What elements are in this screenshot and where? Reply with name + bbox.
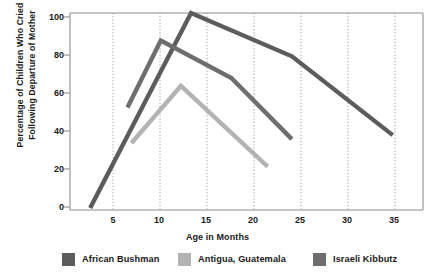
legend-item-israeli-kibbutz: Israeli Kibbutz [313,250,397,268]
legend-label: Israeli Kibbutz [333,254,397,264]
series-line-antigua-guatemala [132,86,268,167]
chart-legend: African Bushman Antigua, Guatemala Israe… [0,250,435,272]
series-lines [90,13,393,208]
y-tick-marks [64,17,70,207]
line-chart: Percentage of Children Who Cried Followi… [0,0,435,280]
x-axis-title: Age in Months [0,232,435,242]
legend-swatch-icon [313,253,326,266]
legend-label: African Bushman [82,254,159,264]
legend-label: Antigua, Guatemala [198,254,286,264]
legend-item-antigua-guatemala: Antigua, Guatemala [178,250,286,268]
series-line-african-bushman [90,13,393,208]
legend-swatch-icon [178,253,191,266]
legend-item-african-bushman: African Bushman [62,250,159,268]
grid-lines-vertical [113,13,395,210]
legend-swatch-icon [62,253,75,266]
